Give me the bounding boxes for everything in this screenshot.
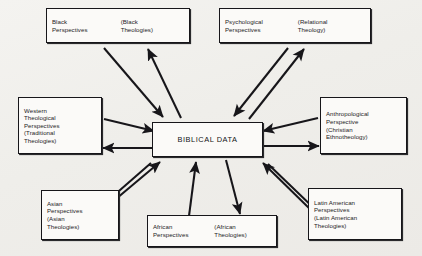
node-psychological-col-b: (Relational Theology) xyxy=(298,18,365,33)
node-african-line-2: Perspectives xyxy=(153,231,214,239)
node-black-col-b: (Black Theologies) xyxy=(121,18,184,33)
node-psychological-line-3: (Relational xyxy=(298,18,365,26)
node-african-col-a: African Perspectives xyxy=(153,223,214,238)
node-asian-line-3: (Asian xyxy=(47,215,113,223)
node-anthropological-line-2: Perspective xyxy=(326,118,401,126)
arrow-african-to-center xyxy=(189,162,196,216)
node-asian-line-1: Asian xyxy=(47,200,113,208)
node-psychological-line-2: Perspectives xyxy=(225,26,298,34)
node-western-line-5: Theologies) xyxy=(24,137,96,145)
node-anthropological-line-4: Ethnotheology) xyxy=(326,133,401,141)
node-latin-line-3: (Latin American xyxy=(314,214,396,222)
node-latin-line-4: Theologies) xyxy=(314,222,396,230)
node-biblical-data[interactable]: BIBLICAL DATA xyxy=(152,122,263,157)
arrow-black-to-center xyxy=(104,48,163,117)
diagram-canvas: Black Perspectives (Black Theologies) Ps… xyxy=(0,0,422,256)
arrow-center-to-black xyxy=(148,49,181,118)
node-latin-line-1: Latin American xyxy=(314,199,396,207)
node-psychological-line-1: Psychological xyxy=(225,18,298,26)
node-psychological-line-4: Theology) xyxy=(298,26,365,34)
arrow-center-to-psychological xyxy=(249,49,304,119)
node-black-line-3: (Black xyxy=(121,18,184,26)
node-latin-line-2: Perspectives xyxy=(314,206,396,214)
node-western-line-3: Perspectives xyxy=(24,122,96,130)
arrow-center-to-african xyxy=(226,160,240,214)
center-label: BIBLICAL DATA xyxy=(158,135,257,144)
node-african-line-4: Theologies) xyxy=(214,231,271,239)
arrow-psychological-to-center xyxy=(234,48,288,116)
node-western-line-1: Western xyxy=(24,107,96,115)
arrow-western-to-center xyxy=(104,119,154,131)
node-african-col-b: (African Theologies) xyxy=(214,223,271,238)
node-latin-american-perspectives[interactable]: Latin American Perspectives (Latin Ameri… xyxy=(308,188,402,240)
node-black-perspectives[interactable]: Black Perspectives (Black Theologies) xyxy=(46,8,190,43)
node-asian-line-4: Theologies) xyxy=(47,223,113,231)
node-black-line-1: Black xyxy=(52,18,121,26)
node-asian-perspectives[interactable]: Asian Perspectives (Asian Theologies) xyxy=(41,190,119,240)
node-anthropological-line-3: (Christian xyxy=(326,126,401,134)
node-african-line-3: (African xyxy=(214,223,271,231)
node-psychological-perspectives[interactable]: Psychological Perspectives (Relational T… xyxy=(219,8,371,43)
node-asian-line-2: Perspectives xyxy=(47,207,113,215)
arrow-latin-to-center xyxy=(263,163,313,212)
node-african-line-1: African xyxy=(153,223,214,231)
node-black-col-a: Black Perspectives xyxy=(52,18,121,33)
node-anthropological-perspective[interactable]: Anthropological Perspective (Christian E… xyxy=(320,97,407,154)
node-black-line-2: Perspectives xyxy=(52,26,121,34)
node-anthropological-line-1: Anthropological xyxy=(326,110,401,118)
node-western-line-2: Theological xyxy=(24,114,96,122)
arrow-anthropological-to-center xyxy=(263,118,318,131)
node-psychological-col-a: Psychological Perspectives xyxy=(225,18,298,33)
node-black-line-4: Theologies) xyxy=(121,26,184,34)
node-western-line-4: (Traditional xyxy=(24,129,96,137)
node-african-perspectives[interactable]: African Perspectives (African Theologies… xyxy=(147,215,277,247)
node-western-theological-perspectives[interactable]: Western Theological Perspectives (Tradit… xyxy=(18,97,102,154)
